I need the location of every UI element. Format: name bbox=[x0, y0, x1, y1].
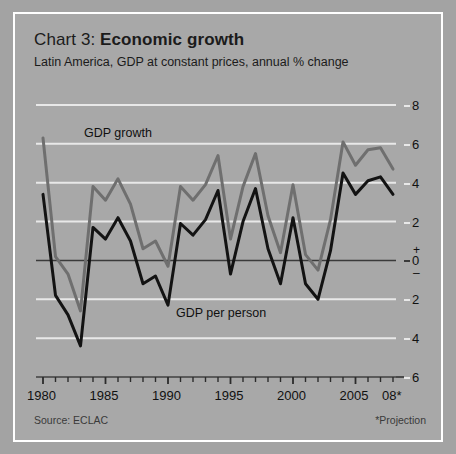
x-axis-tick-label: 1995 bbox=[215, 389, 244, 402]
y-axis-tick-label: 4 bbox=[412, 332, 419, 345]
y-axis-tick-label: 4 bbox=[412, 177, 419, 190]
y-axis-tick-label: 6 bbox=[412, 138, 419, 151]
chart-footer: Source: ECLAC *Projection bbox=[34, 414, 426, 426]
x-axis-tick-label: 08* bbox=[382, 389, 402, 402]
y-axis-tick bbox=[404, 222, 410, 224]
series-line-gdp-growth bbox=[43, 138, 393, 311]
x-axis-ticks bbox=[36, 374, 404, 384]
y-axis-tick-label: 8 bbox=[412, 99, 419, 112]
y-axis-tick bbox=[404, 260, 410, 262]
projection-note: *Projection bbox=[375, 414, 426, 426]
x-axis-tick-label: 1980 bbox=[27, 389, 56, 402]
x-axis-tick-label: 1985 bbox=[90, 389, 119, 402]
x-axis-tick-label: 1990 bbox=[152, 389, 181, 402]
title-prefix: Chart 3: bbox=[34, 30, 100, 49]
x-axis-labels: 19801985199019952000200508* bbox=[0, 385, 456, 405]
y-axis-tick-label: 2 bbox=[412, 216, 419, 229]
chart-screenshot: Chart 3: Economic growth Latin America, … bbox=[0, 0, 456, 454]
y-axis-tick-label: 6 bbox=[412, 371, 419, 384]
y-axis-labels: 86420246+– bbox=[404, 100, 444, 385]
y-axis-tick-label: 2 bbox=[412, 293, 419, 306]
chart-header: Chart 3: Economic growth Latin America, … bbox=[34, 30, 424, 69]
x-axis-tick-label: 2000 bbox=[277, 389, 306, 402]
y-axis-tick bbox=[404, 377, 410, 379]
page-title: Chart 3: Economic growth bbox=[34, 30, 424, 50]
title-main: Economic growth bbox=[100, 30, 244, 49]
y-axis-tick bbox=[404, 183, 410, 185]
x-axis-tick-label: 2005 bbox=[340, 389, 369, 402]
y-axis-tick bbox=[404, 338, 410, 340]
y-axis-plus-sign: + bbox=[413, 244, 420, 256]
chart-svg bbox=[36, 100, 396, 382]
y-axis-minus-sign: – bbox=[413, 267, 420, 279]
y-axis-tick bbox=[404, 144, 410, 146]
plot-area bbox=[36, 100, 396, 380]
y-axis-tick bbox=[404, 299, 410, 301]
y-axis-tick bbox=[404, 105, 410, 107]
chart-subtitle: Latin America, GDP at constant prices, a… bbox=[34, 55, 424, 69]
series-label-gdp-growth: GDP growth bbox=[84, 126, 152, 140]
series-label-gdp-per-person: GDP per person bbox=[176, 306, 266, 320]
source-text: Source: ECLAC bbox=[34, 414, 108, 426]
